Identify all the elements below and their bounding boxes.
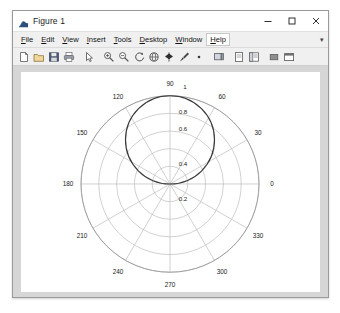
data-cursor-icon[interactable]	[161, 49, 176, 64]
window-title: Figure 1	[33, 16, 65, 26]
angle-label-90: 90	[166, 80, 174, 87]
screenshot-root: Figure 1 File Edit View Insert Tools Des	[0, 0, 340, 313]
radial-label-0-2: 0.2	[179, 195, 188, 202]
menu-item-edit[interactable]: Edit	[37, 33, 58, 46]
radial-label-1: 1	[183, 83, 187, 90]
angle-label-270: 270	[165, 281, 176, 288]
menu-item-tools[interactable]: Tools	[110, 33, 136, 46]
menu-item-insert-rest: nsert	[89, 35, 106, 44]
legend-icon[interactable]	[231, 49, 246, 64]
angle-label-30: 30	[254, 129, 262, 136]
zoom-in-icon[interactable]	[101, 49, 116, 64]
angle-label-300: 300	[217, 268, 228, 275]
window-titlebar: Figure 1	[13, 11, 328, 32]
zoom-out-icon[interactable]	[116, 49, 131, 64]
maximize-icon[interactable]	[280, 11, 304, 31]
menu-item-view[interactable]: View	[58, 33, 82, 46]
angle-label-150: 150	[77, 129, 88, 136]
matlab-figure-icon	[18, 16, 29, 27]
menu-item-file[interactable]: File	[17, 33, 37, 46]
plot-browser-icon[interactable]	[246, 49, 261, 64]
radial-label-0-6: 0.6	[179, 125, 188, 132]
print-figure-icon[interactable]	[61, 49, 76, 64]
rotate-3d-icon[interactable]	[146, 49, 161, 64]
figure-canvas[interactable]: The sine function plotted in polar coord…	[13, 66, 328, 297]
link-plot-icon[interactable]	[191, 49, 206, 64]
menu-item-edit-rest: dit	[46, 35, 54, 44]
window-controls	[256, 11, 328, 31]
angle-label-180: 180	[63, 180, 74, 187]
angle-label-120: 120	[113, 93, 124, 100]
figure-window: Figure 1 File Edit View Insert Tools Des	[12, 10, 329, 298]
save-figure-icon[interactable]	[46, 49, 61, 64]
polar-plot: 0 30 60 90 120 150 180 210 240 270 300 3…	[13, 66, 328, 297]
menubar: File Edit View Insert Tools Desktop Wind…	[13, 32, 328, 48]
colorbar-icon[interactable]	[211, 49, 226, 64]
brush-icon[interactable]	[176, 49, 191, 64]
menu-item-window-rest: indow	[182, 35, 202, 44]
pan-icon[interactable]	[131, 49, 146, 64]
open-file-icon[interactable]	[31, 49, 46, 64]
angle-label-240: 240	[113, 268, 124, 275]
figure-toolbar	[13, 48, 328, 66]
menu-item-help[interactable]: Help	[206, 33, 230, 46]
angle-label-60: 60	[218, 93, 226, 100]
figure-inner: The sine function plotted in polar coord…	[13, 66, 328, 297]
polar-plot-svg: 0 30 60 90 120 150 180 210 240 270 300 3…	[13, 66, 328, 297]
menu-item-desktop[interactable]: Desktop	[135, 33, 171, 46]
menu-overflow-chevron-icon[interactable]: ▾	[320, 36, 324, 44]
angle-label-210: 210	[77, 232, 88, 239]
close-icon[interactable]	[304, 11, 328, 31]
show-plot-tools-dock-icon[interactable]	[281, 49, 296, 64]
menu-item-tools-rest: ools	[118, 35, 132, 44]
minimize-icon[interactable]	[256, 11, 280, 31]
hide-plot-tools-icon[interactable]	[266, 49, 281, 64]
radial-label-0-4: 0.4	[179, 160, 188, 167]
titlebar-left: Figure 1	[13, 16, 65, 27]
menu-item-insert[interactable]: Insert	[83, 33, 110, 46]
radial-label-0-8: 0.8	[179, 108, 188, 115]
menu-item-file-rest: ile	[26, 35, 34, 44]
menu-item-help-rest: elp	[216, 35, 226, 44]
menu-item-view-rest: iew	[67, 35, 78, 44]
new-figure-icon[interactable]	[16, 49, 31, 64]
edit-plot-arrow-icon[interactable]	[81, 49, 96, 64]
menu-item-window[interactable]: Window	[171, 33, 206, 46]
menu-item-desktop-rest: esktop	[145, 35, 167, 44]
angle-label-0: 0	[270, 180, 274, 187]
angle-label-330: 330	[253, 232, 264, 239]
